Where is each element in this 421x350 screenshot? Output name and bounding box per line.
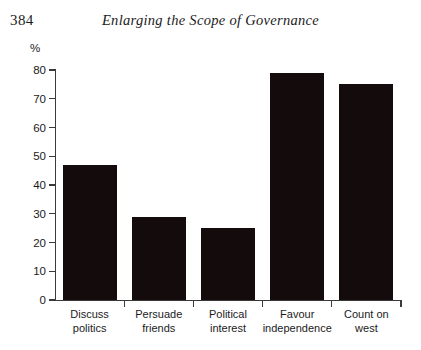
x-axis-tick xyxy=(193,300,194,307)
x-axis-tick xyxy=(124,300,125,307)
y-axis-tick-label: 30 xyxy=(2,208,46,220)
y-axis-tick xyxy=(49,242,56,243)
x-axis-label: Persuadefriends xyxy=(124,308,193,335)
x-axis-label-line: interest xyxy=(193,322,262,336)
y-axis-tick-label: 70 xyxy=(2,93,46,105)
bar-chart: % 01020304050607080 DiscusspoliticsPersu… xyxy=(0,0,421,350)
y-axis-tick xyxy=(49,127,56,128)
x-axis-label-line: Persuade xyxy=(124,308,193,322)
x-axis-tick xyxy=(262,300,263,307)
x-axis-label-line: independence xyxy=(263,322,332,336)
x-axis-tick xyxy=(400,300,401,307)
y-axis-tick-label: 20 xyxy=(2,237,46,249)
y-axis-tick-label: 80 xyxy=(2,64,46,76)
y-axis-tick-label: 0 xyxy=(2,294,46,306)
x-axis-label-line: politics xyxy=(55,322,124,336)
x-axis-label: Politicalinterest xyxy=(193,308,262,335)
y-axis-unit-label: % xyxy=(30,42,40,54)
x-axis-label-line: friends xyxy=(124,322,193,336)
y-axis-tick xyxy=(49,271,56,272)
x-axis-label: Discusspolitics xyxy=(55,308,124,335)
x-axis-label-line: Political xyxy=(193,308,262,322)
x-axis-label-line: west xyxy=(332,322,401,336)
y-axis-tick xyxy=(49,184,56,185)
x-axis-label-line: Discuss xyxy=(55,308,124,322)
y-axis-tick-label: 50 xyxy=(2,150,46,162)
bar xyxy=(201,228,255,300)
x-axis-label-line: Count on xyxy=(332,308,401,322)
y-axis-tick-label: 60 xyxy=(2,122,46,134)
x-axis-label: Favourindependence xyxy=(263,308,332,335)
x-axis-label: Count onwest xyxy=(332,308,401,335)
y-axis-tick xyxy=(49,69,56,70)
y-axis-tick xyxy=(49,98,56,99)
bar xyxy=(63,165,117,300)
x-axis-tick xyxy=(331,300,332,307)
y-axis-tick xyxy=(49,213,56,214)
bar xyxy=(270,73,324,300)
x-axis-line xyxy=(55,300,401,301)
bar xyxy=(339,84,393,300)
y-axis-tick-label: 10 xyxy=(2,265,46,277)
x-axis-label-line: Favour xyxy=(263,308,332,322)
y-axis-tick xyxy=(49,299,56,300)
bar xyxy=(132,217,186,300)
y-axis-tick-label: 40 xyxy=(2,179,46,191)
y-axis-tick xyxy=(49,156,56,157)
